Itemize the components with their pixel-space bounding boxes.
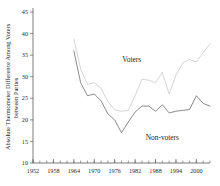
series-line-voters <box>74 39 210 111</box>
x-tick-label: 1952 <box>27 167 39 174</box>
x-tick-label: 1976 <box>109 167 121 174</box>
y-axis-label-line1: Absolute Thermometer Difference Among Vo… <box>4 23 11 150</box>
series-annotations: VotersNon-voters <box>122 55 179 142</box>
chart-container: Absolute Thermometer Difference Among Vo… <box>0 0 220 186</box>
axes <box>33 8 210 163</box>
y-tick-label: 15 <box>22 138 28 145</box>
y-axis-ticks <box>30 12 33 163</box>
y-tick-label: 35 <box>22 51 28 58</box>
y-tick-label: 25 <box>22 94 28 101</box>
series-line-non-voters <box>74 51 210 133</box>
y-tick-label: 30 <box>22 73 28 80</box>
x-axis-ticks <box>33 159 196 163</box>
x-tick-label: 1982 <box>129 167 141 174</box>
y-axis-tick-labels: 1015202530354045 <box>22 8 28 166</box>
x-axis-tick-labels: 195219581964197019761982198819942000 <box>27 167 203 174</box>
x-tick-label: 1964 <box>68 167 80 174</box>
x-tick-label: 2000 <box>190 167 202 174</box>
line-chart: Absolute Thermometer Difference Among Vo… <box>0 0 220 186</box>
x-tick-label: 1958 <box>47 167 59 174</box>
y-tick-label: 45 <box>22 8 28 15</box>
y-axis-label-line2: between Parties <box>12 77 19 118</box>
data-series-group <box>74 39 210 133</box>
y-tick-label: 10 <box>22 159 28 166</box>
x-tick-label: 1988 <box>149 167 161 174</box>
x-tick-label: 1994 <box>170 167 182 174</box>
series-label-non-voters: Non-voters <box>146 133 179 142</box>
y-tick-label: 40 <box>22 30 28 37</box>
y-tick-label: 20 <box>22 116 28 123</box>
series-label-voters: Voters <box>122 55 141 64</box>
x-tick-label: 1970 <box>88 167 100 174</box>
y-axis-label: Absolute Thermometer Difference Among Vo… <box>4 23 19 150</box>
